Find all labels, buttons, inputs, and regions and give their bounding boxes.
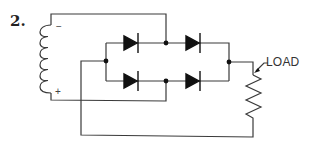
diode-top-right-icon	[186, 36, 199, 50]
wire-top	[51, 14, 166, 43]
circuit-schematic	[0, 0, 322, 146]
figure-number: 2.	[10, 12, 26, 30]
diode-top-left-icon	[124, 36, 137, 50]
wire-coil-bottom	[51, 81, 166, 101]
wire-right-to-load	[229, 62, 253, 75]
inductor-coil-icon	[40, 25, 51, 93]
load-label: LOAD	[266, 55, 299, 69]
junction-bottom-middle-icon	[164, 79, 169, 84]
load-wiper-arrow-icon	[254, 68, 260, 73]
diode-bottom-right-icon	[186, 74, 199, 88]
wire-left-return	[81, 61, 253, 137]
circuit-diagram: 2. − + LOAD	[0, 0, 322, 146]
junction-left-icon	[104, 59, 109, 64]
junction-right-icon	[227, 60, 232, 65]
load-resistor-icon	[246, 75, 261, 121]
diode-bottom-left-icon	[124, 74, 137, 88]
junction-top-middle-icon	[164, 41, 169, 46]
coil-negative-terminal-label: −	[56, 21, 62, 32]
coil-positive-terminal-label: +	[55, 86, 61, 97]
